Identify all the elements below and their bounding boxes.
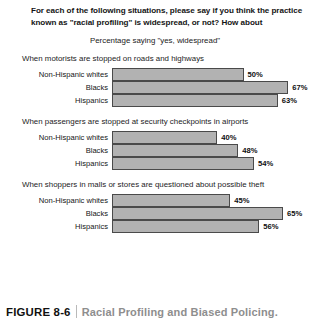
bar-track: 63% [112, 94, 324, 107]
bar-list: Non-Hispanic whites45%Blacks65%Hispanics… [0, 194, 324, 233]
caption-divider-icon [76, 305, 77, 318]
bar-category-label: Blacks [0, 209, 112, 218]
bar-row: Non-Hispanic whites45% [0, 194, 324, 207]
chart-group-heading: When motorists are stopped on roads and … [0, 53, 324, 64]
question-header: For each of the following situations, pl… [0, 0, 324, 28]
bar-value-label: 40% [221, 132, 236, 143]
bar-value-label: 50% [248, 69, 263, 80]
chart-area: When motorists are stopped on roads and … [0, 53, 324, 233]
bar-category-label: Blacks [0, 146, 112, 155]
bar-category-label: Non-Hispanic whites [0, 196, 112, 205]
bar-row: Blacks67% [0, 81, 324, 94]
bar-category-label: Blacks [0, 83, 112, 92]
figure-title: Racial Profiling and Biased Policing. [82, 306, 278, 318]
bar-fill [112, 81, 288, 94]
bar-row: Non-Hispanic whites40% [0, 131, 324, 144]
bar-row: Hispanics54% [0, 157, 324, 170]
question-line-2: known as "racial profiling" is widesprea… [31, 17, 310, 29]
bar-category-label: Hispanics [0, 159, 112, 168]
bar-fill [112, 144, 238, 157]
bar-track: 56% [112, 220, 324, 233]
bar-value-label: 56% [263, 221, 278, 232]
bar-row: Hispanics56% [0, 220, 324, 233]
bar-value-label: 45% [234, 195, 249, 206]
bar-fill [112, 68, 244, 81]
bar-fill [112, 194, 230, 207]
bar-value-label: 48% [242, 145, 257, 156]
bar-category-label: Hispanics [0, 222, 112, 231]
bar-fill [112, 220, 259, 233]
bar-row: Blacks65% [0, 207, 324, 220]
question-line-1: For each of the following situations, pl… [31, 5, 310, 17]
bar-value-label: 54% [258, 158, 273, 169]
bar-list: Non-Hispanic whites50%Blacks67%Hispanics… [0, 68, 324, 107]
chart-group: When motorists are stopped on roads and … [0, 53, 324, 107]
bar-value-label: 63% [282, 95, 297, 106]
figure-number: FIGURE 8-6 [6, 306, 71, 318]
bar-fill [112, 131, 217, 144]
bar-row: Blacks48% [0, 144, 324, 157]
bar-fill [112, 157, 254, 170]
chart-subtitle: Percentage saying "yes, widespread" [0, 36, 324, 46]
chart-group: When shoppers in malls or stores are que… [0, 179, 324, 233]
bar-fill [112, 94, 278, 107]
bar-track: 45% [112, 194, 324, 207]
bar-category-label: Non-Hispanic whites [0, 133, 112, 142]
figure-caption: FIGURE 8-6 Racial Profiling and Biased P… [6, 305, 278, 318]
bar-value-label: 67% [292, 82, 307, 93]
chart-group-heading: When shoppers in malls or stores are que… [0, 179, 324, 190]
bar-category-label: Hispanics [0, 96, 112, 105]
bar-track: 65% [112, 207, 324, 220]
chart-group: When passengers are stopped at security … [0, 116, 324, 170]
bar-track: 67% [112, 81, 324, 94]
bar-track: 54% [112, 157, 324, 170]
bar-track: 50% [112, 68, 324, 81]
bar-row: Non-Hispanic whites50% [0, 68, 324, 81]
bar-list: Non-Hispanic whites40%Blacks48%Hispanics… [0, 131, 324, 170]
bar-fill [112, 207, 283, 220]
bar-category-label: Non-Hispanic whites [0, 70, 112, 79]
bar-track: 48% [112, 144, 324, 157]
bar-row: Hispanics63% [0, 94, 324, 107]
figure-container: For each of the following situations, pl… [0, 0, 324, 321]
bar-track: 40% [112, 131, 324, 144]
chart-group-heading: When passengers are stopped at security … [0, 116, 324, 127]
bar-value-label: 65% [287, 208, 302, 219]
